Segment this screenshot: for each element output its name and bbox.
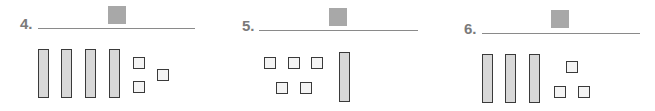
one-unit [578,86,590,98]
one-unit [554,86,566,98]
one-unit [566,61,578,73]
ten-rod [505,54,516,103]
answer-box[interactable] [551,10,569,28]
problem-6: 6. [0,0,655,111]
problem-number: 6. [464,21,477,36]
answer-line[interactable] [482,33,640,34]
ten-rod [482,54,493,103]
ten-rod [529,54,540,103]
